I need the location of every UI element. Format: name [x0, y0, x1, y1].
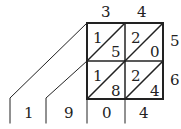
top-digit: 4 — [137, 3, 147, 21]
cell-tens: 1 — [93, 67, 103, 85]
cell-ones: 0 — [150, 43, 160, 61]
result-digit: 9 — [64, 104, 74, 122]
top-digit: 3 — [101, 3, 111, 21]
result-digit: 4 — [139, 104, 149, 122]
right-digit: 5 — [170, 32, 180, 50]
cell-ones: 4 — [150, 82, 160, 100]
cell-tens: 2 — [131, 67, 141, 85]
result-digit: 1 — [24, 104, 34, 122]
right-digit: 6 — [170, 71, 180, 89]
cell-ones: 8 — [111, 82, 121, 100]
cell-tens: 1 — [93, 29, 103, 47]
diagonal-extension — [10, 23, 87, 123]
cell-tens: 2 — [131, 29, 141, 47]
lattice-multiplication-diagram: 3 4 5 6 1 5 2 0 1 8 2 4 1 9 0 4 — [0, 0, 181, 129]
cell-ones: 5 — [111, 43, 121, 61]
result-digit: 0 — [102, 104, 112, 122]
lattice-svg: 3 4 5 6 1 5 2 0 1 8 2 4 1 9 0 4 — [0, 0, 181, 129]
